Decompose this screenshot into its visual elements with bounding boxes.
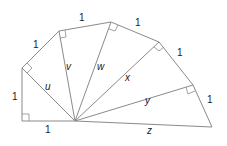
hyp-x xyxy=(75,42,159,121)
right-angle-icon xyxy=(22,114,29,121)
hypotenuses xyxy=(22,22,212,127)
edge-outer5 xyxy=(193,85,212,127)
right-angle-markers xyxy=(22,25,195,121)
right-angle-icon xyxy=(154,47,164,51)
label-x: x xyxy=(124,72,131,83)
outer-edges xyxy=(22,22,212,127)
spiral-diagram: 1 1 1 1 1 1 1 u v w x y z xyxy=(0,0,227,146)
label-u: u xyxy=(45,81,51,92)
right-angle-icon xyxy=(186,87,195,94)
right-angle-icon xyxy=(27,63,32,73)
label-v: v xyxy=(66,61,72,72)
edge-outer1 xyxy=(22,31,59,68)
hyp-w xyxy=(75,22,111,121)
label-outer1: 1 xyxy=(33,39,39,50)
hyp-y xyxy=(75,85,193,121)
label-base: 1 xyxy=(45,124,51,135)
right-angle-icon xyxy=(60,30,66,38)
label-outer4: 1 xyxy=(177,47,183,58)
label-outer2: 1 xyxy=(79,12,85,23)
right-angle-icon xyxy=(109,25,118,31)
hyp-z xyxy=(75,121,212,127)
edge-outer2 xyxy=(59,22,111,31)
edge-outer4 xyxy=(159,42,193,85)
label-w: w xyxy=(97,61,105,72)
label-outer5: 1 xyxy=(207,94,213,105)
label-vertical: 1 xyxy=(12,91,18,102)
label-z: z xyxy=(146,125,152,136)
label-outer3: 1 xyxy=(135,17,141,28)
label-y: y xyxy=(144,95,151,106)
